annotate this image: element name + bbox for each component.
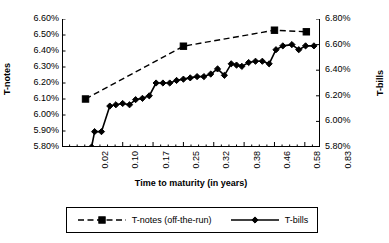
y-axis-right-title: T-bills	[375, 63, 385, 103]
legend-label: T-notes (off-the-run)	[132, 215, 212, 225]
data-point-marker	[259, 58, 265, 64]
x-axis-tick-label: 0.10	[130, 151, 140, 185]
y-axis-left-tick-label: 5.80%	[13, 141, 59, 151]
plot-area	[62, 19, 320, 147]
data-point-marker	[303, 29, 309, 35]
x-axis-tick-label: 0.25	[191, 151, 201, 185]
plot-svg	[62, 19, 320, 147]
y-axis-left-title: T-notes	[2, 59, 12, 99]
y-axis-right-tick-label: 6.40%	[325, 64, 371, 74]
y-axis-right-tick-label: 6.00%	[325, 115, 371, 125]
y-axis-left-tick-label: 6.10%	[13, 93, 59, 103]
data-point-marker	[173, 77, 179, 83]
series-1	[82, 27, 309, 102]
x-axis-tick-label: 0.58	[312, 151, 322, 185]
data-point-marker	[167, 80, 173, 86]
chart-legend: T-notes (off-the-run)T-bills	[66, 207, 318, 233]
data-point-marker	[139, 95, 145, 101]
x-axis-tick-label: 0.46	[282, 151, 292, 185]
y-axis-left-tick-label: 6.50%	[13, 29, 59, 39]
data-point-marker	[82, 96, 88, 102]
y-axis-left-tick-label: 6.40%	[13, 45, 59, 55]
data-point-marker	[302, 43, 308, 49]
data-point-marker	[88, 144, 94, 147]
data-point-marker	[187, 75, 193, 81]
data-point-marker	[120, 100, 126, 106]
x-axis-tick-label: 0.38	[252, 151, 262, 185]
chart-figure: T-notes T-bills Time to maturity (in yea…	[0, 0, 389, 243]
legend-entry[interactable]: T-notes (off-the-run)	[76, 213, 212, 227]
data-point-marker	[92, 129, 98, 135]
series-line	[92, 45, 314, 147]
x-axis-tick-label: 0.32	[221, 151, 231, 185]
data-point-marker	[160, 80, 166, 86]
y-axis-left-tick-label: 6.30%	[13, 61, 59, 71]
series-line	[86, 30, 307, 99]
data-point-marker	[98, 217, 104, 223]
data-point-marker	[146, 93, 152, 99]
data-point-marker	[239, 63, 245, 69]
data-point-marker	[311, 43, 317, 49]
data-point-marker	[246, 59, 252, 65]
data-point-marker	[201, 74, 207, 80]
y-axis-left-tick-label: 5.90%	[13, 125, 59, 135]
x-axis-tick-label: 0.17	[161, 151, 171, 185]
data-point-marker	[252, 217, 258, 223]
y-axis-right-tick-label: 6.20%	[325, 90, 371, 100]
x-axis-tick-label: 0.83	[343, 151, 353, 185]
data-point-marker	[252, 58, 258, 64]
data-point-marker	[273, 47, 279, 53]
data-point-marker	[271, 27, 277, 33]
data-point-marker	[153, 80, 159, 86]
legend-swatch-square-icon	[76, 213, 128, 227]
y-axis-right-tick-label: 6.80%	[325, 13, 371, 23]
data-point-marker	[107, 103, 113, 109]
legend-entry[interactable]: T-bills	[229, 213, 309, 227]
legend-swatch-diamond-icon	[229, 213, 281, 227]
data-point-marker	[233, 62, 239, 68]
data-point-marker	[194, 74, 200, 80]
data-point-marker	[266, 61, 272, 67]
y-axis-left-tick-label: 6.60%	[13, 13, 59, 23]
y-axis-right-tick-label: 5.80%	[325, 141, 371, 151]
y-axis-right-tick-label: 6.60%	[325, 39, 371, 49]
data-point-marker	[98, 129, 104, 135]
data-point-marker	[180, 76, 186, 82]
series-2	[88, 42, 317, 148]
data-point-marker	[280, 43, 286, 49]
y-axis-left-tick-label: 6.20%	[13, 77, 59, 87]
x-axis-tick-label: 0.02	[100, 151, 110, 185]
data-point-marker	[113, 102, 119, 108]
legend-label: T-bills	[285, 215, 309, 225]
y-axis-left-tick-label: 6.00%	[13, 109, 59, 119]
data-point-marker	[180, 43, 186, 49]
